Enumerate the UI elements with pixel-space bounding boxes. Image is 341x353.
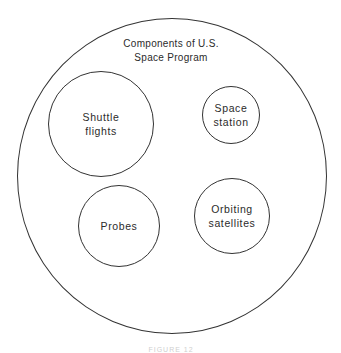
label-line-2: station [213,115,248,129]
figure-caption: FIGURE 12 [148,346,193,353]
label-line-1: Orbiting [209,202,256,216]
label-line-1: Space [213,101,248,115]
label-line-1: Probes [101,219,138,233]
label-line-2: satellites [209,216,256,230]
title-line-2: Space Program [123,51,218,65]
outer-set-title: Components of U.S. Space Program [123,37,218,65]
label-shuttle-flights: Shuttle flights [83,110,120,138]
label-space-station: Space station [213,101,248,129]
label-line-1: Shuttle [83,110,120,124]
title-line-1: Components of U.S. [123,37,218,51]
outer-circle-space-program [17,18,327,334]
label-line-2: flights [83,124,120,138]
label-probes: Probes [101,219,138,233]
label-orbiting-satellites: Orbiting satellites [209,202,256,230]
